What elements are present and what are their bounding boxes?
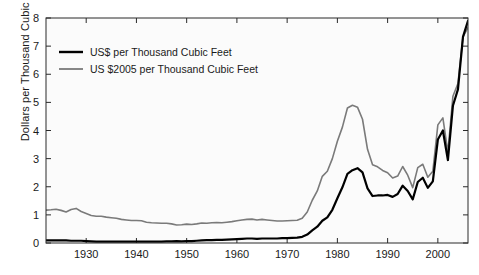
y-tick-labels: 012345678 (33, 12, 39, 249)
x-tick-label: 1950 (174, 248, 198, 260)
y-tick-label: 0 (33, 237, 39, 249)
y-tick-label: 5 (33, 96, 39, 108)
chart-figure: Dollars per Thousand Cubic Feet 01234567… (0, 0, 479, 275)
x-tick-label: 2000 (426, 248, 450, 260)
x-tick-label: 1980 (325, 248, 349, 260)
y-tick-label: 6 (33, 68, 39, 80)
x-tick-label: 1990 (375, 248, 399, 260)
x-tick-label: 1970 (275, 248, 299, 260)
y-tick-label: 3 (33, 153, 39, 165)
y-tick-label: 2 (33, 181, 39, 193)
legend-label: US $2005 per Thousand Cubic Feet (90, 63, 258, 75)
x-tick-label: 1940 (124, 248, 148, 260)
x-tick-labels: 19301940195019601970198019902000 (74, 248, 450, 260)
y-tick-label: 8 (33, 12, 39, 24)
legend-label: US$ per Thousand Cubic Feet (90, 46, 232, 58)
x-tick-label: 1930 (74, 248, 98, 260)
y-tick-label: 1 (33, 209, 39, 221)
y-tick-label: 4 (33, 125, 39, 137)
plot-area: 012345678 193019401950196019701980199020… (0, 0, 479, 275)
y-tick-label: 7 (33, 40, 39, 52)
x-tick-label: 1960 (225, 248, 249, 260)
